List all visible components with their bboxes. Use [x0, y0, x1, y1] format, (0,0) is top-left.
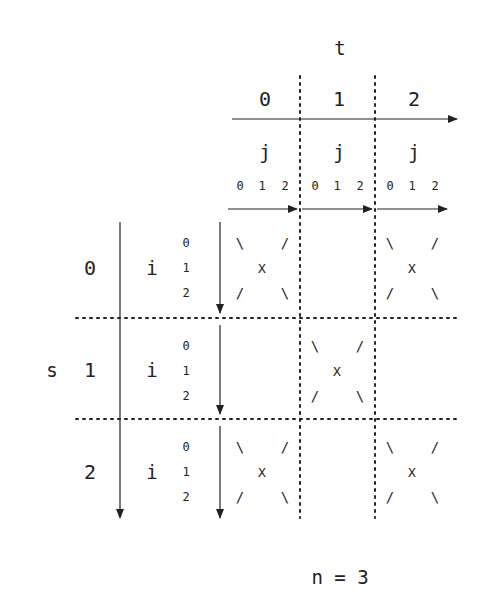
t-value-1: 1 — [333, 89, 345, 109]
j-value-0-0: 0 — [236, 180, 243, 192]
s-value-1: 1 — [84, 360, 96, 380]
cell-tl-glyph: \ — [236, 440, 244, 454]
cell-center-glyph: X — [408, 466, 416, 479]
t-value-0: 0 — [259, 89, 271, 109]
t-value-2: 2 — [408, 89, 420, 109]
i-value-2-1: 1 — [182, 466, 189, 478]
j-value-2-1: 1 — [408, 180, 415, 192]
j-label-1: j — [333, 143, 344, 162]
i-value-0-0: 0 — [182, 237, 189, 249]
i-value-2-0: 0 — [182, 441, 189, 453]
j-label-2: j — [408, 143, 419, 162]
i-value-2-2: 2 — [182, 491, 189, 503]
cell-tl-glyph: \ — [386, 236, 394, 250]
t-axis-label: t — [334, 39, 345, 58]
cell-br-glyph: \ — [431, 286, 439, 300]
cell-tr-glyph: / — [431, 440, 439, 454]
cell-center-glyph: X — [258, 262, 266, 275]
j-label-0: j — [259, 143, 270, 162]
s-value-2: 2 — [84, 462, 96, 482]
cell-bl-glyph: / — [311, 389, 319, 403]
cell-bl-glyph: / — [236, 490, 244, 504]
i-value-1-1: 1 — [182, 365, 189, 377]
cell-tl-glyph: \ — [311, 339, 319, 353]
cell-br-glyph: \ — [281, 286, 289, 300]
j-value-2-2: 2 — [431, 180, 438, 192]
cell-center-glyph: X — [333, 365, 341, 378]
cell-bl-glyph: / — [236, 286, 244, 300]
i-value-0-2: 2 — [182, 287, 189, 299]
i-value-1-0: 0 — [182, 340, 189, 352]
i-value-0-1: 1 — [182, 262, 189, 274]
j-value-1-2: 2 — [356, 180, 363, 192]
cell-tr-glyph: / — [281, 440, 289, 454]
i-label-2: i — [146, 463, 157, 482]
cell-bl-glyph: / — [386, 490, 394, 504]
j-value-1-0: 0 — [311, 180, 318, 192]
i-label-0: i — [146, 259, 157, 278]
j-value-0-2: 2 — [281, 180, 288, 192]
cell-tr-glyph: / — [356, 339, 364, 353]
n-label: n = 3 — [311, 568, 368, 587]
cell-tl-glyph: \ — [236, 236, 244, 250]
cell-br-glyph: \ — [356, 389, 364, 403]
i-value-1-2: 2 — [182, 390, 189, 402]
cell-tr-glyph: / — [431, 236, 439, 250]
cell-tr-glyph: / — [281, 236, 289, 250]
cell-br-glyph: \ — [281, 490, 289, 504]
cell-tl-glyph: \ — [386, 440, 394, 454]
cell-center-glyph: X — [408, 262, 416, 275]
j-value-0-1: 1 — [258, 180, 265, 192]
s-value-0: 0 — [84, 258, 96, 278]
cell-br-glyph: \ — [431, 490, 439, 504]
cell-center-glyph: X — [258, 466, 266, 479]
i-label-1: i — [146, 361, 157, 380]
cell-bl-glyph: / — [386, 286, 394, 300]
j-value-2-0: 0 — [386, 180, 393, 192]
s-axis-label: s — [46, 361, 57, 380]
j-value-1-1: 1 — [333, 180, 340, 192]
